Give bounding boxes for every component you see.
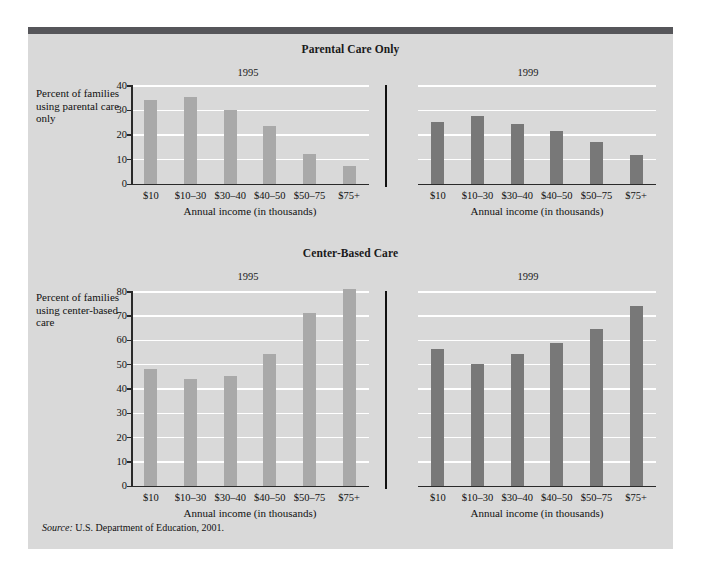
y-axis-tick-label: 60 xyxy=(103,335,127,346)
gridline xyxy=(131,388,369,390)
bar xyxy=(590,329,603,486)
x-axis-tick-label: $50–75 xyxy=(294,190,326,201)
bar xyxy=(144,369,157,486)
gridline xyxy=(131,159,369,161)
x-axis-tick-label: $75+ xyxy=(625,190,647,201)
y-axis-tick-label: 30 xyxy=(103,105,127,116)
figure-title: Center-Based Care xyxy=(28,247,673,259)
x-axis-tick-label: $40–50 xyxy=(254,492,286,503)
x-axis-line xyxy=(131,486,369,488)
panel-year-label-1999: 1999 xyxy=(488,67,568,78)
x-axis-tick-label: $75+ xyxy=(338,492,360,503)
y-axis-line xyxy=(131,291,133,487)
x-axis-tick-label: $40–50 xyxy=(541,190,573,201)
y-axis-tick-label: 0 xyxy=(103,481,127,492)
gridline xyxy=(131,413,369,415)
gridline xyxy=(418,340,656,342)
figure-title: Parental Care Only xyxy=(28,43,673,55)
bar xyxy=(184,97,197,183)
panel-divider xyxy=(385,85,387,187)
x-axis-tick-label: $10 xyxy=(430,190,446,201)
plot-area-1999: $10$10–30$30–40$40–50$50–75$75+Annual in… xyxy=(418,85,656,185)
x-axis-tick-label: $30–40 xyxy=(501,492,533,503)
gridline xyxy=(131,364,369,366)
gridline xyxy=(418,437,656,439)
bar xyxy=(343,289,356,486)
x-axis-tick-label: $30–40 xyxy=(501,190,533,201)
source-text: U.S. Department of Education, 2001. xyxy=(75,522,224,533)
source-label: Source: xyxy=(42,522,73,533)
source-note: Source: U.S. Department of Education, 20… xyxy=(42,522,224,533)
bar xyxy=(224,376,237,485)
bar xyxy=(431,122,444,184)
bar xyxy=(263,126,276,184)
gridline xyxy=(418,159,656,161)
x-axis-tick-label: $50–75 xyxy=(294,492,326,503)
x-axis-tick-label: $40–50 xyxy=(254,190,286,201)
bar xyxy=(550,343,563,485)
gridline xyxy=(418,413,656,415)
x-axis-tick-label: $10–30 xyxy=(462,190,494,201)
x-axis-tick-label: $30–40 xyxy=(214,190,246,201)
plot-area-1995: 01020304050607080$10$10–30$30–40$40–50$5… xyxy=(131,291,369,487)
x-axis-title: Annual income (in thousands) xyxy=(418,205,656,217)
gridline xyxy=(131,315,369,317)
y-axis-tick-label: 0 xyxy=(103,179,127,190)
y-axis-line xyxy=(131,85,133,185)
bar xyxy=(630,306,643,486)
y-axis-tick-label: 10 xyxy=(103,457,127,468)
bar xyxy=(303,154,316,184)
x-axis-tick-label: $40–50 xyxy=(541,492,573,503)
gridline xyxy=(418,388,656,390)
y-axis-tick-label: 30 xyxy=(103,408,127,419)
bar xyxy=(630,155,643,183)
y-axis-tick-label: 40 xyxy=(103,81,127,92)
gridline xyxy=(131,110,369,112)
bar xyxy=(184,379,197,486)
x-axis-tick-label: $10–30 xyxy=(175,492,207,503)
panel-divider xyxy=(385,291,387,489)
gridline xyxy=(418,134,656,136)
x-axis-line xyxy=(418,184,656,186)
gridline xyxy=(418,85,656,87)
x-axis-title: Annual income (in thousands) xyxy=(418,507,656,519)
bar xyxy=(343,166,356,183)
panel-year-label-1995: 1995 xyxy=(208,271,288,282)
gridline xyxy=(131,134,369,136)
y-axis-tick-label: 20 xyxy=(103,432,127,443)
bar xyxy=(511,354,524,485)
x-axis-tick-label: $10 xyxy=(143,492,159,503)
gridline xyxy=(131,461,369,463)
y-axis-tick-label: 70 xyxy=(103,311,127,322)
panel-year-label-1995: 1995 xyxy=(208,67,288,78)
figure-root: Parental Care Only 1995 1999 Percent of … xyxy=(0,0,702,575)
plot-area-1995: 010203040$10$10–30$30–40$40–50$50–75$75+… xyxy=(131,85,369,185)
gridline xyxy=(131,340,369,342)
x-axis-tick-label: $75+ xyxy=(625,492,647,503)
x-axis-tick-label: $75+ xyxy=(338,190,360,201)
gridline xyxy=(131,437,369,439)
x-axis-tick-label: $10 xyxy=(430,492,446,503)
x-axis-tick-label: $10–30 xyxy=(175,190,207,201)
gridline xyxy=(418,110,656,112)
chart-panel: Parental Care Only 1995 1999 Percent of … xyxy=(28,27,673,549)
y-axis-tick-label: 80 xyxy=(103,287,127,298)
bar xyxy=(511,124,524,183)
bar xyxy=(471,116,484,184)
bar xyxy=(224,110,237,184)
gridline xyxy=(418,461,656,463)
bar xyxy=(303,313,316,486)
y-axis-tick-label: 10 xyxy=(103,154,127,165)
bar xyxy=(144,100,157,184)
plot-area-1999: $10$10–30$30–40$40–50$50–75$75+Annual in… xyxy=(418,291,656,487)
x-axis-tick-label: $50–75 xyxy=(581,492,613,503)
bar xyxy=(471,364,484,486)
gridline xyxy=(131,85,369,87)
y-axis-tick-label: 40 xyxy=(103,384,127,395)
x-axis-line xyxy=(418,486,656,488)
gridline xyxy=(418,291,656,293)
bar xyxy=(590,142,603,184)
gridline xyxy=(418,364,656,366)
panel-year-label-1999: 1999 xyxy=(488,271,568,282)
x-axis-tick-label: $50–75 xyxy=(581,190,613,201)
